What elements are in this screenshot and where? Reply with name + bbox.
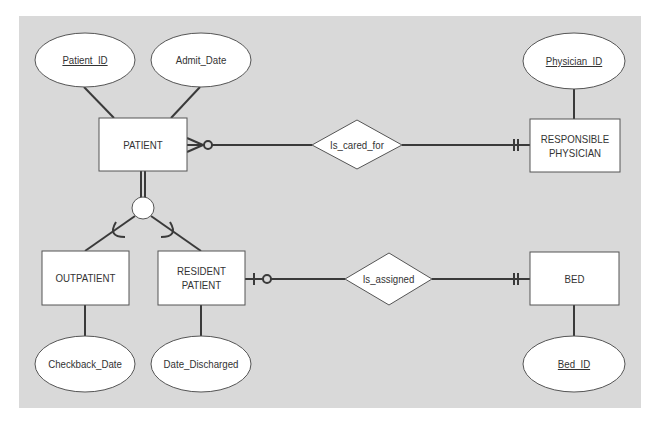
entity-outpatient: OUTPATIENT [47, 251, 124, 305]
attribute-bed-id-label: Bed_ID [558, 357, 590, 371]
attribute-physician-id-label: Physician_ID [546, 54, 602, 68]
attribute-patient-id: Patient_ID [41, 33, 129, 87]
attribute-admit-date-label: Admit_Date [176, 53, 227, 67]
entity-outpatient-label: OUTPATIENT [56, 271, 116, 285]
entity-responsible-physician: RESPONSIBLE PHYSICIAN [535, 119, 614, 172]
relationship-is-cared-for-label: Is_cared_for [330, 138, 384, 152]
entity-patient: PATIENT [104, 118, 181, 171]
attribute-date-discharged: Date_Discharged [157, 336, 245, 392]
admit-date-connector [171, 87, 200, 118]
attribute-checkback-date-label: Checkback_Date [48, 357, 122, 371]
entity-resident-patient: RESIDENT PATIENT [163, 251, 240, 305]
entity-bed-label: BED [565, 272, 585, 286]
zero-optional-marker [263, 275, 271, 283]
er-diagram: PATIENT RESPONSIBLE PHYSICIAN OUTPATIENT… [0, 0, 656, 423]
entity-responsible-physician-label-2: PHYSICIAN [549, 146, 601, 160]
attribute-physician-id: Physician_ID [529, 33, 619, 89]
zero-optional-marker [204, 141, 212, 149]
subtype-circle [132, 197, 154, 219]
entity-resident-patient-label-2: PATIENT [182, 278, 221, 292]
entity-resident-patient-label-1: RESIDENT [177, 264, 226, 278]
patient-id-connector [84, 87, 114, 118]
entity-bed: BED [535, 252, 613, 305]
attribute-patient-id-label: Patient_ID [62, 53, 107, 67]
attribute-admit-date: Admit_Date [157, 33, 245, 87]
entity-responsible-physician-label-1: RESPONSIBLE [541, 132, 609, 146]
relationship-is-assigned-label: Is_assigned [363, 272, 415, 286]
relationship-is-cared-for: Is_cared_for [317, 120, 396, 169]
relationship-is-assigned: Is_assigned [350, 253, 427, 305]
attribute-date-discharged-label: Date_Discharged [164, 357, 239, 371]
entity-patient-label: PATIENT [123, 138, 162, 152]
attribute-bed-id: Bed_ID [529, 336, 619, 392]
attribute-checkback-date: Checkback_Date [41, 336, 129, 392]
